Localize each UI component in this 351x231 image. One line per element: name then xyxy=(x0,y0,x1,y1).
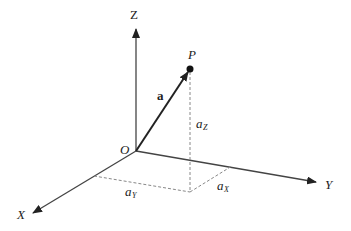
svg-text:X: X xyxy=(223,185,230,194)
z-axis-label: Z xyxy=(130,7,138,22)
vector-label: a xyxy=(157,88,164,103)
svg-text:Z: Z xyxy=(203,123,208,132)
ax-label: a X xyxy=(217,178,230,194)
y-axis xyxy=(136,151,316,182)
x-axis-label: X xyxy=(16,207,26,222)
svg-text:a: a xyxy=(217,178,224,193)
vector-diagram: Z Y X O P a a Z a Y a X xyxy=(0,0,351,231)
y-axis-label: Y xyxy=(325,177,334,192)
point-p xyxy=(187,66,194,73)
svg-text:a: a xyxy=(125,184,132,199)
vector-a xyxy=(136,72,188,151)
x-axis xyxy=(33,151,136,213)
origin-label: O xyxy=(120,142,130,157)
svg-text:a: a xyxy=(196,116,203,131)
az-label: a Z xyxy=(196,116,208,132)
ay-projection-line xyxy=(94,176,190,192)
ay-label: a Y xyxy=(125,184,138,200)
point-label: P xyxy=(187,47,196,62)
svg-text:Y: Y xyxy=(132,191,138,200)
